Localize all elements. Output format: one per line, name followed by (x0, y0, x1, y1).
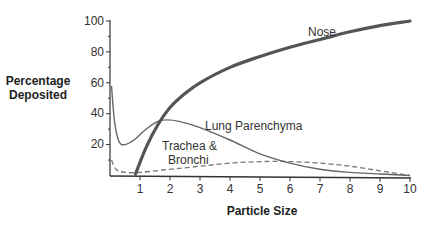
x-tick-label: 10 (403, 182, 417, 196)
y-tick-label: 100 (84, 14, 104, 28)
particle-deposition-chart: 20 40 60 80 100 1 2 3 4 5 6 7 8 9 10 Per… (0, 0, 437, 226)
nose-label: Nose (308, 25, 336, 39)
x-tick-label: 6 (287, 182, 294, 196)
y-tick-label: 60 (91, 76, 105, 90)
x-tick-label: 8 (347, 182, 354, 196)
x-tick-label: 1 (137, 182, 144, 196)
y-axis-title-line1: Percentage (6, 74, 71, 88)
y-tick-label: 80 (91, 45, 105, 59)
x-tick-label: 2 (167, 182, 174, 196)
y-axis-title-line2: Deposited (9, 88, 67, 102)
trachea-label-line2: Bronchi (168, 153, 209, 167)
lung-parenchyma-label: Lung Parenchyma (205, 119, 303, 133)
y-tick-label: 20 (91, 137, 105, 151)
y-tick-label: 40 (91, 106, 105, 120)
x-tick-label: 5 (257, 182, 264, 196)
x-axis-title: Particle Size (227, 204, 298, 218)
x-tick-label: 9 (377, 182, 384, 196)
trachea-label-line1: Trachea & (162, 139, 217, 153)
x-tick-label: 7 (317, 182, 324, 196)
x-tick-label: 4 (227, 182, 234, 196)
x-tick-labels: 1 2 3 4 5 6 7 8 9 10 (137, 182, 417, 196)
y-tick-labels: 20 40 60 80 100 (84, 14, 104, 151)
x-tick-label: 3 (197, 182, 204, 196)
